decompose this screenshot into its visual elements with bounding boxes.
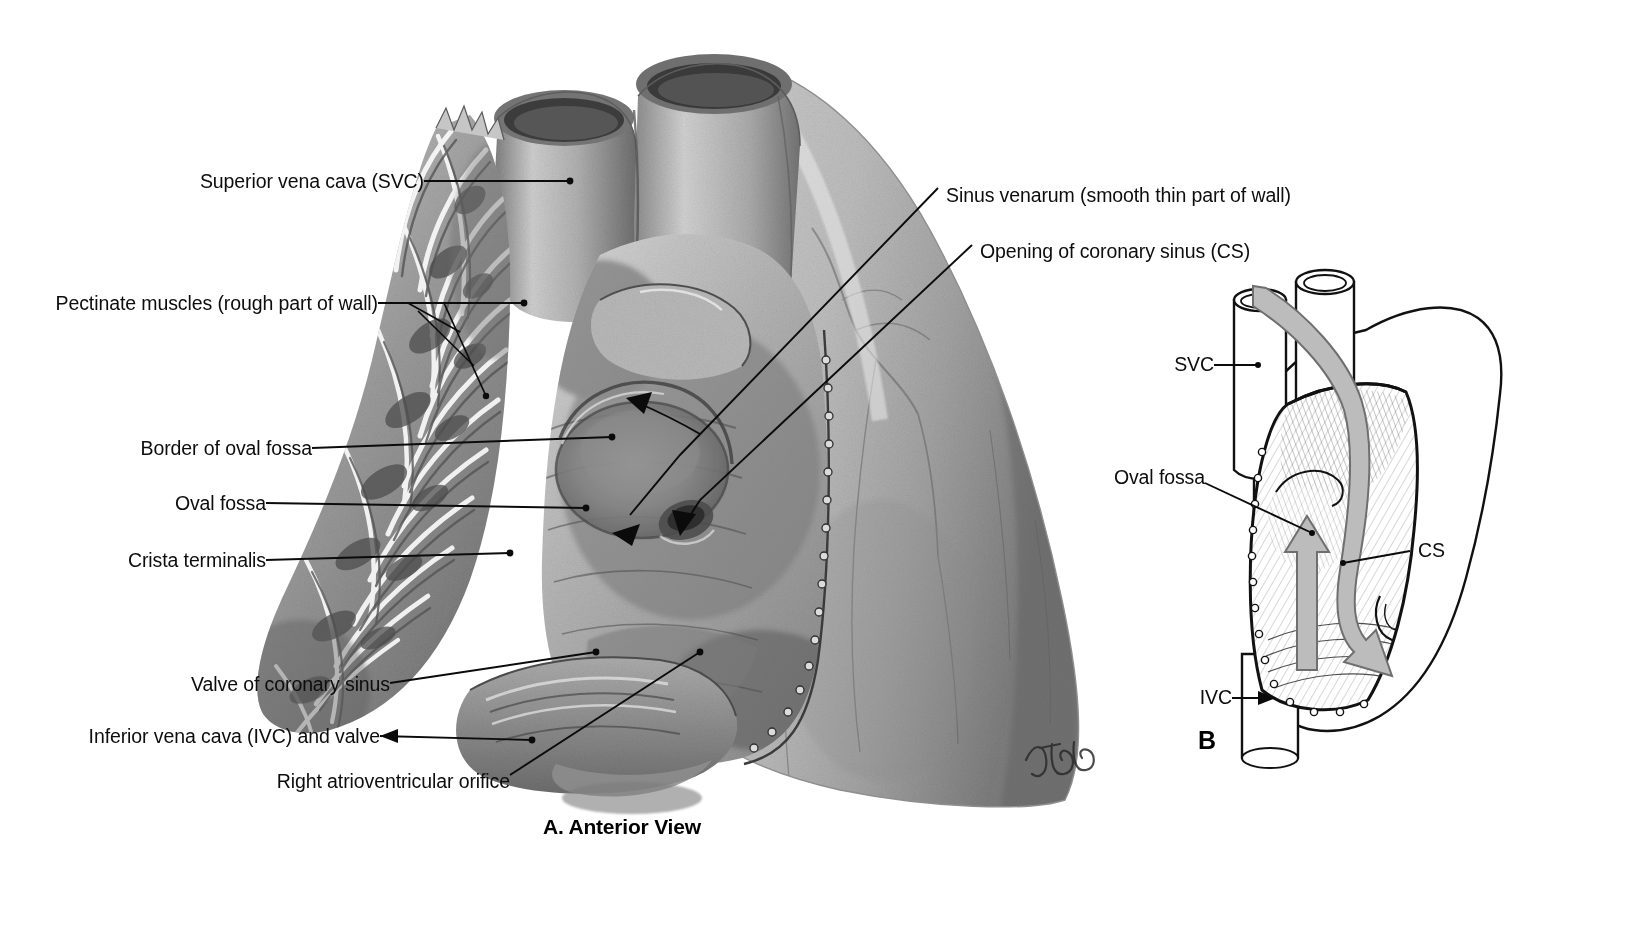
label-b-svc: SVC bbox=[1110, 353, 1214, 375]
panel-b-artwork bbox=[0, 0, 1632, 934]
label-b-ivc: IVC bbox=[1140, 686, 1232, 708]
label-b-oval-fossa: Oval fossa bbox=[1060, 466, 1205, 488]
panel-b-letter: B bbox=[1198, 726, 1216, 755]
label-b-cs: CS bbox=[1418, 539, 1445, 561]
anatomy-figure: Superior vena cava (SVC) Pectinate muscl… bbox=[0, 0, 1632, 934]
